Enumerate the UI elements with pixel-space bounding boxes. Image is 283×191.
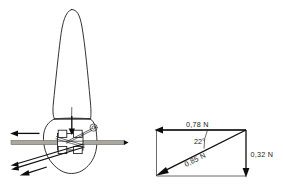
resultant-strand-upper bbox=[14, 144, 83, 165]
resultant-force-arrow bbox=[20, 167, 47, 176]
tooth-outline bbox=[53, 10, 91, 120]
resultant-strand-lower bbox=[14, 147, 83, 168]
vector-panel: 0,78 N 22° 0,85 N 0,32 N bbox=[155, 120, 274, 178]
archwire-right-tip bbox=[124, 140, 129, 145]
bracket-wing-left bbox=[58, 130, 67, 137]
resultant-strand-upper-tip bbox=[11, 162, 19, 167]
resultant-strand-lower-tip bbox=[11, 166, 19, 171]
vertical-force-label: 0,32 N bbox=[251, 150, 274, 159]
figure-root: 0,78 N 22° 0,85 N 0,32 N bbox=[0, 0, 283, 191]
vertical-component-vector bbox=[243, 130, 250, 178]
coil-loop bbox=[90, 124, 97, 131]
tooth-panel bbox=[10, 10, 128, 176]
horizontal-force-label: 0,78 N bbox=[186, 120, 209, 129]
coil-loop-inner bbox=[92, 126, 95, 129]
angle-label: 22° bbox=[194, 137, 205, 146]
horizontal-force-arrow bbox=[10, 130, 39, 136]
figure-canvas: 0,78 N 22° 0,85 N 0,32 N bbox=[0, 0, 283, 191]
resultant-force-label: 0,85 N bbox=[183, 151, 207, 169]
